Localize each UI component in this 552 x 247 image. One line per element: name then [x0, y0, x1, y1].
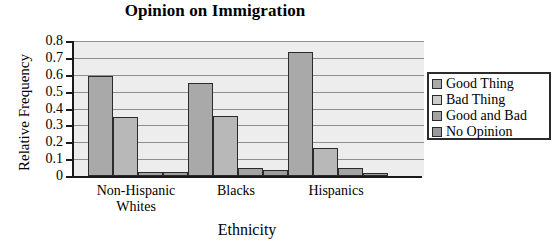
- legend-label: Good and Bad: [446, 109, 527, 123]
- y-tick-label: 0.8: [46, 34, 64, 48]
- y-tick-mark: [66, 159, 73, 161]
- y-tick-label: 0.1: [46, 152, 64, 166]
- legend-item[interactable]: Bad Thing: [432, 92, 549, 107]
- gridline: [74, 92, 424, 93]
- legend-swatch-icon: [432, 79, 442, 89]
- y-tick-label: 0.5: [46, 85, 64, 99]
- gridline: [74, 75, 424, 76]
- plot-area: [72, 41, 424, 176]
- legend-item[interactable]: Good and Bad: [432, 108, 549, 123]
- y-tick-mark: [66, 41, 73, 43]
- bar: [188, 83, 213, 176]
- y-tick-mark: [66, 176, 73, 178]
- y-tick-mark: [66, 75, 73, 77]
- y-tick-mark: [66, 125, 73, 127]
- x-tick-label: Hispanics: [276, 183, 396, 199]
- legend-swatch-icon: [432, 127, 442, 137]
- bar: [213, 116, 238, 176]
- y-tick-label: 0.7: [46, 51, 64, 65]
- bar: [288, 52, 313, 176]
- legend-label: Bad Thing: [446, 93, 505, 107]
- y-tick-mark: [66, 58, 73, 60]
- y-tick-mark: [66, 92, 73, 94]
- bar: [313, 148, 338, 176]
- y-tick-label: 0.4: [46, 102, 64, 116]
- legend-item[interactable]: Good Thing: [432, 76, 549, 91]
- gridline: [74, 58, 424, 59]
- y-tick-label: 0.2: [46, 135, 64, 149]
- bar: [338, 168, 363, 176]
- legend-swatch-icon: [432, 111, 442, 121]
- gridline: [74, 41, 424, 42]
- y-tick-label: 0: [56, 169, 63, 183]
- y-tick-mark: [66, 142, 73, 144]
- y-tick-label: 0.3: [46, 118, 64, 132]
- legend-swatch-icon: [432, 95, 442, 105]
- bar: [88, 76, 113, 176]
- gridline: [74, 109, 424, 110]
- legend: Good ThingBad ThingGood and BadNo Opinio…: [427, 72, 551, 140]
- legend-label: Good Thing: [446, 77, 514, 91]
- y-tick-label: 0.6: [46, 68, 64, 82]
- y-axis-title: Relative Frequency: [16, 38, 33, 188]
- legend-label: No Opinion: [446, 125, 513, 139]
- x-axis-title: Ethnicity: [72, 221, 422, 239]
- bar: [238, 168, 263, 176]
- x-axis-line: [70, 176, 422, 178]
- bar: [113, 117, 138, 176]
- y-tick-mark: [66, 109, 73, 111]
- chart-title: Opinion on Immigration: [0, 1, 430, 21]
- legend-item[interactable]: No Opinion: [432, 124, 549, 139]
